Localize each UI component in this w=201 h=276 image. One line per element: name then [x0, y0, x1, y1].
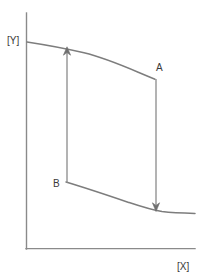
x-axis-label: [X]	[177, 261, 189, 272]
lower-branch-curve	[66, 182, 195, 213]
point-b-label: B	[53, 178, 60, 189]
figure-container: [Y] [X] A B	[0, 0, 201, 276]
diagram-canvas	[0, 0, 201, 276]
point-a-label: A	[156, 62, 163, 73]
y-axis-label: [Y]	[7, 35, 19, 46]
upper-branch-curve	[27, 42, 155, 79]
